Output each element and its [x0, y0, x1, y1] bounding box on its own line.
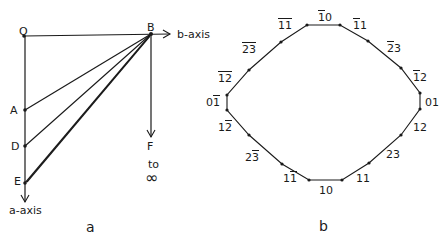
point-a [23, 108, 27, 112]
label-m1-m1: 11 [278, 20, 292, 31]
label-m2-3: 23 [387, 43, 401, 54]
label-1-m2: 12 [218, 122, 232, 133]
label-m1-0: 10 [318, 12, 332, 23]
point-d [23, 144, 27, 148]
label-d: D [11, 141, 19, 152]
point-e [23, 181, 27, 185]
label-b: B [147, 22, 155, 33]
caption-b: b [319, 221, 328, 232]
label-a-point: A [10, 105, 18, 116]
label-m2-m3: 23 [242, 44, 256, 55]
ba-line [25, 34, 151, 110]
label-e: E [14, 176, 21, 187]
label-f: F [147, 141, 153, 152]
label-m1-1: 11 [353, 20, 367, 31]
label-m1-m2: 12 [218, 73, 232, 84]
label-2-3: 23 [386, 149, 400, 160]
label-1-1: 11 [356, 173, 370, 184]
label-1-m1: 11 [283, 173, 297, 184]
bd-line [25, 34, 151, 146]
label-0-m1: 01 [206, 97, 220, 108]
label-0-1: 01 [425, 97, 439, 108]
label-2-m3: 23 [245, 152, 259, 163]
label-b-axis: b-axis [177, 29, 210, 40]
label-1-2: 12 [413, 122, 427, 133]
label-o: O [19, 26, 28, 37]
label-1-0: 10 [319, 185, 333, 196]
caption-a: a [86, 222, 95, 233]
infinity-symbol: ∞ [145, 172, 158, 183]
label-m1-2: 12 [413, 72, 427, 83]
be-line-2 [27, 36, 150, 182]
label-a-axis: a-axis [9, 205, 42, 216]
